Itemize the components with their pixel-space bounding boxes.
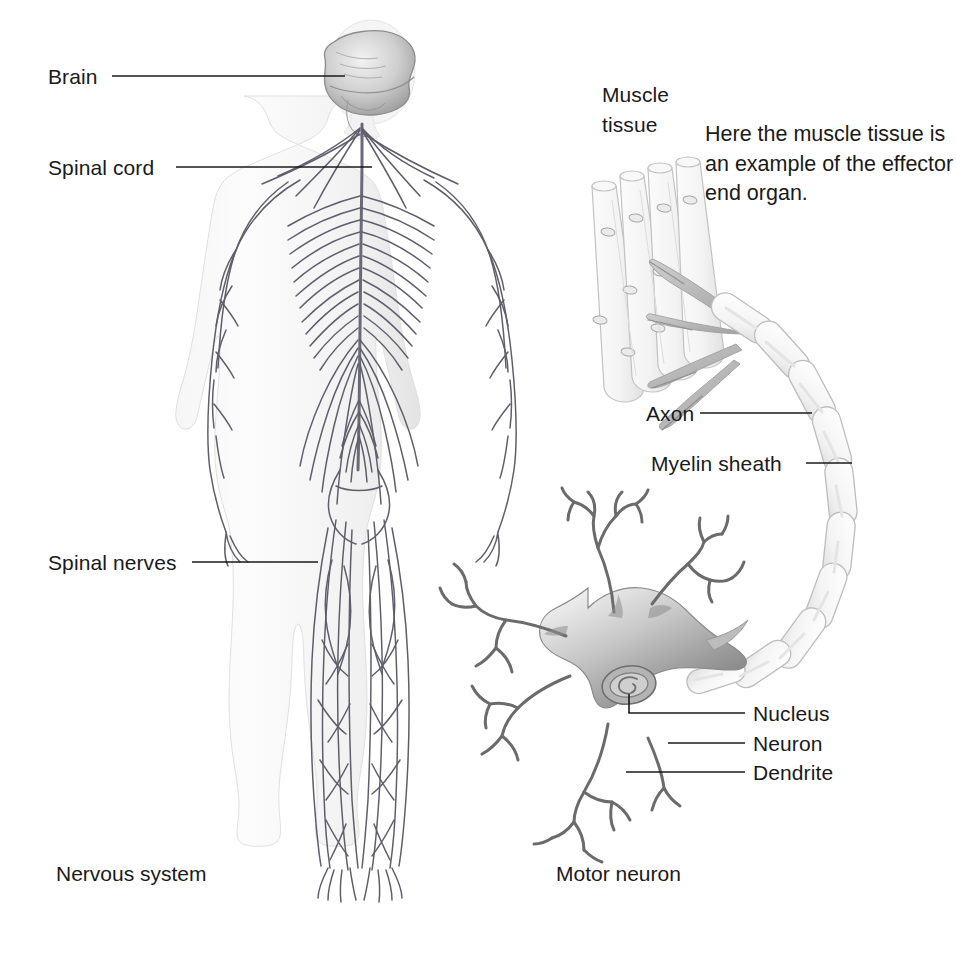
label-axon: Axon [646, 401, 694, 426]
label-nucleus: Nucleus [753, 701, 830, 726]
caption-nervous-system: Nervous system [56, 862, 207, 886]
label-spinal-nerves: Spinal nerves [48, 550, 177, 575]
label-dendrite: Dendrite [753, 760, 833, 785]
human-body-icon [176, 20, 516, 902]
label-muscle-tissue-line1: Muscle [602, 82, 669, 107]
caption-motor-neuron: Motor neuron [556, 862, 681, 886]
diagram-canvas: Brain Spinal cord Spinal nerves Muscle t… [0, 0, 956, 964]
label-spinal-cord: Spinal cord [48, 155, 154, 180]
label-neuron: Neuron [753, 731, 822, 756]
label-muscle-tissue-line2: tissue [602, 112, 657, 137]
effector-note: Here the muscle tissue is an example of … [705, 120, 955, 209]
label-brain: Brain [48, 64, 98, 89]
label-myelin-sheath: Myelin sheath [651, 451, 782, 476]
